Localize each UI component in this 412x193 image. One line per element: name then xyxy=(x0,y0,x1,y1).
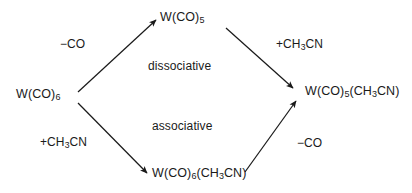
arrow-reactant-to-bottom xyxy=(78,103,147,173)
pathway-label-dissociative: dissociative xyxy=(148,60,211,72)
node-product: W(CO)5(CH3CN) xyxy=(305,85,399,99)
reagent-label-top-left: −CO xyxy=(60,38,85,50)
reaction-scheme: W(CO)6 W(CO)5 W(CO)6(CH3CN) W(CO)5(CH3CN… xyxy=(0,0,412,193)
reagent-label-bottom-left: +CH3CN xyxy=(40,136,87,150)
node-intermediate-dissociative: W(CO)5 xyxy=(160,11,204,25)
reagent-label-top-right: +CH3CN xyxy=(276,38,323,52)
arrow-bottom-to-product xyxy=(245,101,296,172)
node-intermediate-associative: W(CO)6(CH3CN) xyxy=(152,167,246,181)
node-reactant: W(CO)6 xyxy=(16,88,60,102)
reagent-label-bottom-right: −CO xyxy=(297,137,322,149)
pathway-label-associative: associative xyxy=(152,120,212,132)
arrow-reactant-to-top xyxy=(78,20,156,92)
